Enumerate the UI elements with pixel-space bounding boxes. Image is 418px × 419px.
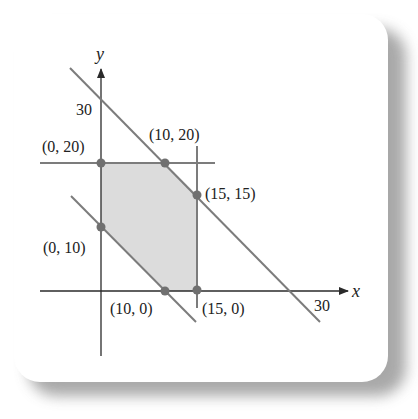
vertex-label-15-15: (15, 15) [205,185,256,203]
vertex-dot-0-20 [97,159,106,168]
vertex-label-10-20: (10, 20) [149,126,200,144]
vertex-dot-15-0 [193,286,202,295]
y-tick-30: 30 [76,101,92,118]
vertex-label-10-0: (10, 0) [110,300,153,318]
feasible-region-graph: y x 30 30 (0, 20) (10, 20) (15, 15) (0, … [0,0,418,419]
x-axis-label: x [351,281,360,301]
vertex-dot-10-0 [161,287,170,296]
vertex-label-0-20: (0, 20) [42,138,85,156]
x-tick-30: 30 [314,297,330,314]
vertex-dot-10-20 [161,159,170,168]
vertex-label-15-0: (15, 0) [202,300,245,318]
y-axis-label: y [94,44,104,64]
vertex-dot-15-15 [193,191,202,200]
vertex-dot-0-10 [97,223,106,232]
vertex-label-0-10: (0, 10) [43,239,86,257]
